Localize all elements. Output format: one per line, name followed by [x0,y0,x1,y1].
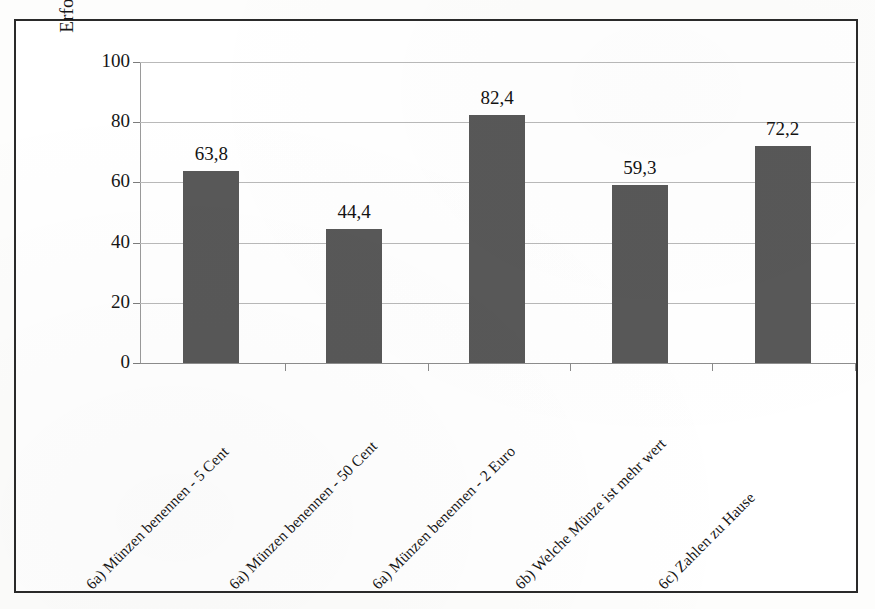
y-tick-label: 20 [84,291,130,313]
y-tick-label: 60 [84,170,130,192]
bar-value-label: 59,3 [623,157,656,179]
y-axis-title: Erfolgsquoten der Kinder in Prozent [56,0,82,56]
bar-chart-figure: Erfolgsquoten der Kinder in Prozent 100 … [0,0,875,609]
x-tick-mark [712,363,713,371]
bar [469,115,525,363]
y-tick-label: 40 [84,231,130,253]
bar [755,146,811,363]
bar-value-label: 44,4 [338,201,371,223]
x-tick-mark [570,363,571,371]
x-tick-mark [285,363,286,371]
bar [183,171,239,363]
y-axis-tick-labels: 100 80 60 40 20 0 [84,62,130,363]
bar [612,185,668,363]
bar-value-label: 82,4 [480,87,513,109]
gridline-100 [140,62,855,63]
y-tick-label: 100 [84,50,130,72]
x-tick-mark [855,363,856,371]
y-tick-label: 0 [84,351,130,373]
y-tick-label: 80 [84,110,130,132]
bar-value-label: 72,2 [766,118,799,140]
x-tick-mark [428,363,429,371]
bar [326,229,382,363]
bar-value-label: 63,8 [195,143,228,165]
axis-baseline [140,363,855,364]
